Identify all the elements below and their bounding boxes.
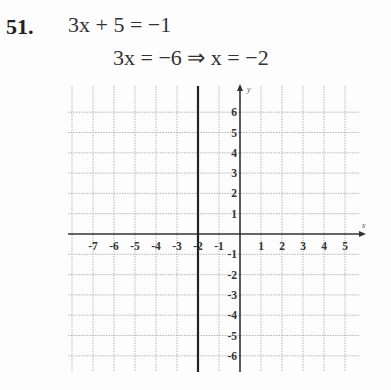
grid-lines (68, 86, 360, 372)
x-tick-label: -7 (88, 240, 98, 252)
x-tick-label: -2 (193, 240, 203, 252)
y-axis-label: y (246, 85, 251, 94)
axes (68, 84, 366, 372)
y-axis-arrow-icon (237, 84, 243, 91)
y-tick-label: 2 (231, 187, 237, 199)
y-tick-label: 4 (231, 147, 237, 159)
x-axis-label: x (361, 221, 366, 230)
y-tick-label: 3 (231, 167, 237, 179)
x-tick-label: 3 (300, 240, 306, 252)
x-tick-label: -1 (214, 240, 224, 252)
x-tick-label: 2 (279, 240, 285, 252)
y-tick-label: -4 (227, 309, 237, 321)
x-axis-arrow-icon (359, 231, 366, 237)
x-tick-label: 4 (321, 240, 327, 252)
coordinate-graph: xy-7-6-5-4-3-2-112345654321-1-2-3-4-5-6 (0, 0, 391, 390)
y-tick-label: -3 (227, 289, 237, 301)
y-tick-label: 5 (231, 127, 237, 139)
y-tick-label: 6 (231, 106, 237, 118)
x-tick-label: -6 (109, 240, 119, 252)
x-tick-label: -4 (151, 240, 161, 252)
y-tick-label: 1 (231, 208, 237, 220)
x-tick-label: -3 (172, 240, 182, 252)
x-tick-label: -5 (130, 240, 140, 252)
y-tick-label: -5 (227, 330, 237, 342)
x-tick-label: 1 (258, 240, 264, 252)
x-tick-label: 5 (342, 240, 348, 252)
y-tick-label: -6 (227, 350, 237, 362)
y-tick-label: -2 (227, 269, 237, 281)
y-tick-label: -1 (227, 248, 237, 260)
